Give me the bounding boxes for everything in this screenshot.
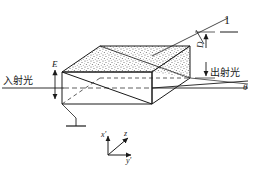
axis-z-label: z [124, 130, 127, 138]
emergent-ray [152, 78, 248, 88]
ground-symbol [62, 104, 86, 126]
axis-z-arrow [108, 138, 128, 155]
incident-light-label: 入射光 [3, 76, 33, 86]
field-E-label: E [52, 60, 58, 69]
prism-body [62, 46, 190, 104]
axis-x-prime-label: x' [101, 131, 106, 139]
emergent-light-label: 出射光 [210, 68, 240, 78]
dimension-D-label: D [196, 42, 205, 49]
angle-theta-label: θ [243, 83, 247, 92]
electrode-one-label: 1 [224, 14, 230, 26]
prism-diagram-canvas [0, 0, 256, 173]
coordinate-axes [108, 136, 131, 155]
axis-y-prime-label: y' [126, 157, 131, 165]
optics-figure: 入射光 出射光 E D θ 1 x' y' z [0, 0, 256, 173]
prism-hidden-edge-bottom [62, 78, 100, 104]
